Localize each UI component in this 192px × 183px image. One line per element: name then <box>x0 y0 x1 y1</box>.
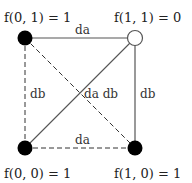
label-edge-left: db <box>30 87 46 101</box>
label-f00: f(0, 0) = 1 <box>4 166 71 181</box>
node-f11-hollow <box>128 31 143 46</box>
label-f01: f(0, 1) = 1 <box>4 10 71 25</box>
node-f00-filled <box>18 141 33 156</box>
label-f10: f(1, 0) = 1 <box>114 166 181 181</box>
node-f01-filled <box>18 31 33 46</box>
label-edge-bottom-da: da <box>75 133 90 147</box>
label-center: da db <box>84 87 118 101</box>
label-edge-right: db <box>140 87 156 101</box>
node-f10-filled <box>128 141 143 156</box>
boolean-square-diagram: f(0, 1) = 1 f(1, 1) = 0 f(0, 0) = 1 f(1,… <box>0 0 192 183</box>
label-f11: f(1, 1) = 0 <box>114 10 181 25</box>
label-edge-top: da <box>75 23 90 37</box>
